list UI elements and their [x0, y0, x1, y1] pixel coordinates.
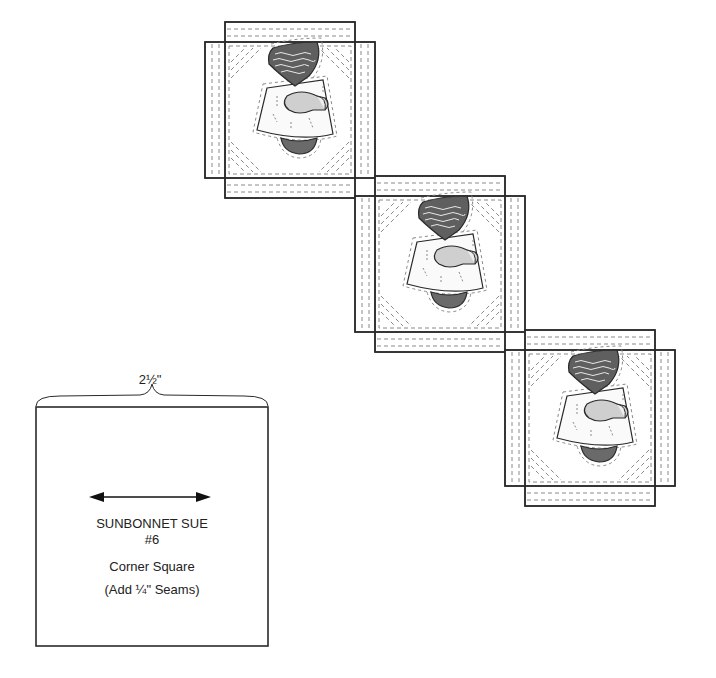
pattern-number: #6 — [60, 532, 244, 547]
seam-note: (Add ¼" Seams) — [60, 582, 244, 597]
corner-square-template — [36, 384, 268, 646]
quilt-block-3 — [505, 330, 675, 506]
piece-name: Corner Square — [60, 559, 244, 574]
quilt-diagram — [0, 0, 716, 678]
dimension-brace — [36, 384, 268, 406]
pattern-title: SUNBONNET SUE — [60, 516, 244, 531]
quilt-block-2 — [355, 176, 525, 352]
quilt-block-1 — [205, 22, 375, 198]
dimension-label: 2½" — [120, 372, 180, 387]
